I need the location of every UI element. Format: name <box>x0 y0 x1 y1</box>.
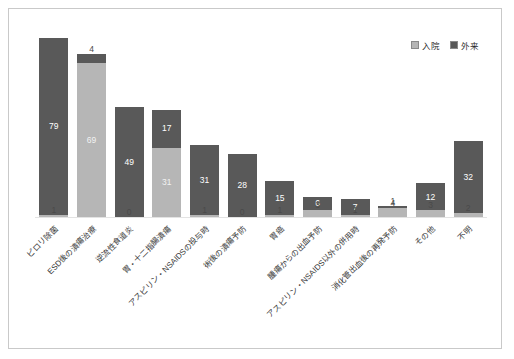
x-axis-baseline <box>35 217 487 218</box>
x-axis-tick-label: ピロリ除菌 <box>26 225 60 259</box>
bar-group[interactable]: 280 <box>223 27 261 217</box>
bar-segment-outpatient-value: 31 <box>200 176 209 185</box>
bar-segment-outpatient-value: 28 <box>237 181 246 190</box>
chart-frame: 入院 外来 7914694901731311280151637114123322… <box>8 8 502 349</box>
x-axis-tick-label: 不明 <box>457 225 474 242</box>
x-axis-label-cell: 消化管出血後の再発予防 <box>374 221 412 341</box>
bar-segment-inpatient[interactable]: 3 <box>416 210 445 217</box>
bar-segment-inpatient-value: 1 <box>202 206 207 215</box>
bar-group[interactable]: 71 <box>336 27 374 217</box>
bar-segment-inpatient-value: 69 <box>87 136 96 145</box>
bar-segment-outpatient-value: 4 <box>89 45 94 54</box>
bar-group[interactable]: 151 <box>261 27 299 217</box>
bar-group[interactable]: 63 <box>299 27 337 217</box>
bar-segment-outpatient[interactable]: 17 <box>152 110 181 148</box>
bar-segment-inpatient[interactable]: 3 <box>303 210 332 217</box>
bar-stack[interactable]: 123 <box>416 183 445 217</box>
x-axis-labels: ピロリ除菌ESD後の潰瘍治療逆流性食道炎胃・十二指腸潰瘍アスピリン・NSAIDS… <box>35 221 487 341</box>
bar-stack[interactable]: 71 <box>341 199 370 217</box>
x-axis-label-cell: ESD後の潰瘍治療 <box>73 221 111 341</box>
x-axis-label-cell: 術後の潰瘍予防 <box>223 221 261 341</box>
bar-segment-outpatient-value: 17 <box>162 124 171 133</box>
bar-segment-inpatient-value: 1 <box>51 206 56 215</box>
bar-group[interactable]: 123 <box>412 27 450 217</box>
bar-segment-inpatient-value: 0 <box>127 208 132 217</box>
bar-stack[interactable]: 490 <box>115 107 144 217</box>
bar-stack[interactable]: 14 <box>378 206 407 217</box>
bar-stack[interactable]: 280 <box>228 154 257 217</box>
bar-segment-inpatient-value: 2 <box>466 204 471 213</box>
bar-segment-outpatient-value: 15 <box>275 194 284 203</box>
bar-segment-inpatient-value: 1 <box>277 206 282 215</box>
bar-segment-outpatient[interactable]: 79 <box>39 38 68 215</box>
bar-segment-outpatient-value: 79 <box>49 122 58 131</box>
x-axis-label-cell: その他 <box>412 221 450 341</box>
bar-segment-inpatient[interactable]: 4 <box>378 208 407 217</box>
bar-segment-inpatient-value: 3 <box>315 201 320 210</box>
bar-segment-outpatient[interactable]: 4 <box>77 54 106 63</box>
x-axis-label-cell: アスピリン・NSAIDSの投与時 <box>186 221 224 341</box>
x-axis-label-cell: ピロリ除菌 <box>35 221 73 341</box>
bar-segment-inpatient-value: 31 <box>162 178 171 187</box>
bar-segment-outpatient[interactable]: 49 <box>115 107 144 217</box>
bar-stack[interactable]: 1731 <box>152 110 181 217</box>
bar-segment-inpatient-value: 0 <box>240 208 245 217</box>
bar-stack[interactable]: 311 <box>190 145 219 217</box>
bar-segment-outpatient-value: 32 <box>463 173 472 182</box>
bar-stack[interactable]: 791 <box>39 38 68 217</box>
x-axis-label-cell: 不明 <box>449 221 487 341</box>
bar-group[interactable]: 469 <box>73 27 111 217</box>
bar-group[interactable]: 14 <box>374 27 412 217</box>
bar-series-container: 7914694901731311280151637114123322 <box>35 27 487 217</box>
bar-stack[interactable]: 63 <box>303 197 332 217</box>
bar-stack[interactable]: 322 <box>454 141 483 217</box>
bar-segment-inpatient-value: 4 <box>391 199 396 208</box>
bar-stack[interactable]: 151 <box>265 181 294 217</box>
x-axis-label-cell: 胃癌 <box>261 221 299 341</box>
bar-segment-inpatient[interactable]: 69 <box>77 63 106 217</box>
bar-stack[interactable]: 469 <box>77 54 106 217</box>
x-axis-tick-label: 胃癌 <box>269 225 286 242</box>
bar-segment-inpatient-value: 1 <box>353 206 358 215</box>
bar-group[interactable]: 791 <box>35 27 73 217</box>
x-axis-label-cell: 逆流性食道炎 <box>110 221 148 341</box>
bar-group[interactable]: 490 <box>110 27 148 217</box>
bar-segment-inpatient-value: 3 <box>428 201 433 210</box>
bar-segment-inpatient[interactable]: 31 <box>152 148 181 217</box>
bar-group[interactable]: 322 <box>449 27 487 217</box>
bar-segment-outpatient-value: 49 <box>124 158 133 167</box>
x-axis-tick-label: その他 <box>414 225 437 248</box>
bar-group[interactable]: 1731 <box>148 27 186 217</box>
bar-group[interactable]: 311 <box>186 27 224 217</box>
